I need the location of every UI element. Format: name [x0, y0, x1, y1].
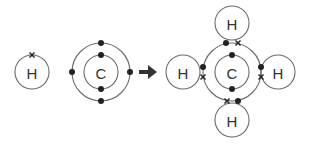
- methane-bonding-diagram: H C C H H H H: [0, 0, 310, 144]
- hydrogen-label-top: H: [227, 16, 238, 33]
- electron-dot: [127, 69, 133, 75]
- electron-dot: [98, 98, 104, 104]
- electron-dot: [200, 64, 206, 70]
- carbon-label: C: [96, 65, 107, 82]
- electron-dot: [235, 98, 241, 104]
- electron-dot: [223, 40, 229, 46]
- right-arrow-icon: [139, 65, 157, 79]
- electron-dot: [98, 52, 104, 58]
- hydrogen-label-left: H: [178, 65, 189, 82]
- carbon-label: C: [227, 65, 238, 82]
- hydrogen-label-bottom: H: [227, 113, 238, 130]
- electron-dot: [98, 40, 104, 46]
- electron-dot: [258, 64, 264, 70]
- electron-dot: [98, 86, 104, 92]
- electron-dot: [229, 52, 235, 58]
- reactant-carbon: C: [69, 40, 133, 104]
- reactant-hydrogen: H: [15, 53, 49, 90]
- product-methane: C H H H H: [166, 6, 295, 137]
- electron-dot: [229, 86, 235, 92]
- hydrogen-label-right: H: [273, 65, 284, 82]
- hydrogen-label: H: [27, 65, 38, 82]
- electron-dot: [69, 69, 75, 75]
